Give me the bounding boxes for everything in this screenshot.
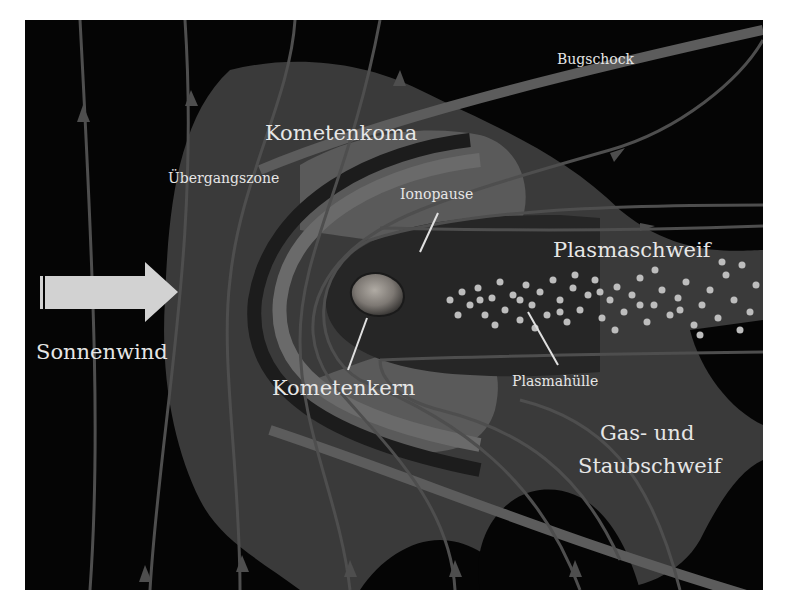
comet-nucleus [351,273,404,316]
label-plasmaschweif: Plasmaschweif [553,238,713,262]
label-uebergangszone: Übergangszone [168,169,279,186]
label-ionopause: Ionopause [400,186,473,202]
label-bugschock: Bugschock [557,51,635,67]
label-staubschweif: Staubschweif [578,454,723,478]
comet-diagram: Bugschock Kometenkoma Übergangszone Iono… [0,0,789,616]
label-plasmahuelle: Plasmahülle [512,373,598,389]
label-gas-und: Gas- und [600,421,694,445]
label-sonnenwind: Sonnenwind [36,340,168,364]
label-kometenkoma: Kometenkoma [265,121,417,145]
label-kometenkern: Kometenkern [272,376,415,400]
